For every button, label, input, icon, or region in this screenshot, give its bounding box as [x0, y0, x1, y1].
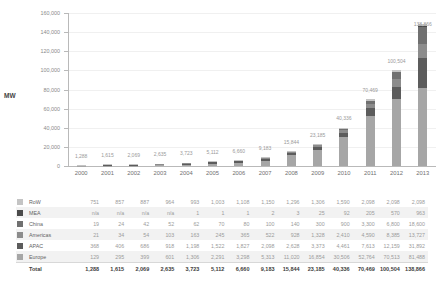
table-cell: 21	[77, 229, 102, 240]
table-cell: 5,313	[252, 251, 277, 263]
bar-column: 1,615	[94, 13, 120, 166]
table-row-label: Europe	[16, 251, 77, 263]
table-cell: 2,069	[127, 263, 152, 275]
table-cell: 3,723	[177, 263, 202, 275]
bar-column: 15,844	[278, 13, 304, 166]
bar-segment-apac	[366, 108, 375, 115]
bar-segment-europe	[366, 116, 375, 166]
y-axis-tick-label: 20,000	[18, 144, 60, 150]
table-cell: 54	[127, 229, 152, 240]
table-cell: 2,635	[152, 263, 177, 275]
bar-value-label: 70,469	[363, 87, 378, 93]
table-cell: 129	[77, 251, 102, 263]
table-cell: 963	[403, 207, 428, 218]
table-cell: 3,298	[227, 251, 252, 263]
bar-segment-europe	[155, 165, 164, 166]
x-axis-line	[68, 166, 436, 167]
x-axis-tick-label: 2008	[278, 170, 304, 176]
x-axis-tick-label: 2006	[226, 170, 252, 176]
y-axis-tick-label: 120,000	[18, 48, 60, 54]
table-cell: 24	[102, 218, 127, 229]
y-axis-tick-label: 140,000	[18, 29, 60, 35]
table-cell: 11,020	[278, 251, 303, 263]
table-cell: 2,098	[353, 196, 378, 207]
table-cell: 205	[353, 207, 378, 218]
bar-stack	[129, 164, 138, 166]
table-row-label: APAC	[16, 240, 77, 251]
y-axis-tick-label: 80,000	[18, 87, 60, 93]
table-cell: 1,150	[252, 196, 277, 207]
table-cell: 399	[127, 251, 152, 263]
table-cell: n/a	[127, 207, 152, 218]
table-cell: 92	[328, 207, 353, 218]
table-cell: 62	[177, 218, 202, 229]
table-cell: 993	[177, 196, 202, 207]
bar-segment-europe	[234, 163, 243, 166]
y-axis-tick-label: 0	[18, 163, 60, 169]
table-cell: 70	[202, 218, 227, 229]
table-cell: 1,522	[202, 240, 227, 251]
table-cell: 16,854	[303, 251, 328, 263]
x-axis-tick-label: 2000	[68, 170, 94, 176]
y-axis-tick-label: 60,000	[18, 106, 60, 112]
table-cell: 2	[252, 207, 277, 218]
stacked-bar-chart: MW 160,000140,000120,000100,00080,00060,…	[0, 0, 442, 192]
table-cell: 2,098	[252, 240, 277, 251]
table-cell: 1,198	[177, 240, 202, 251]
table-row: Americas2134541031632453655229281,3282,4…	[16, 229, 428, 240]
table-cell: 2,098	[378, 196, 403, 207]
bar-value-label: 1,615	[101, 152, 114, 158]
table-cell: 295	[102, 251, 127, 263]
table-row-label: China	[16, 218, 77, 229]
table-cell: 900	[328, 218, 353, 229]
table-cell: 1,003	[202, 196, 227, 207]
data-table: RoW7518578879649931,0031,1081,1501,2961,…	[16, 196, 428, 274]
table-cell: 100	[252, 218, 277, 229]
table-cell: 23,185	[303, 263, 328, 275]
table-row-label: Total	[16, 263, 77, 275]
table-row: China192442526270801001403009003,3006,80…	[16, 218, 428, 229]
table-cell: 4,461	[328, 240, 353, 251]
table-cell: 100,504	[378, 263, 403, 275]
y-axis-title: MW	[4, 92, 16, 99]
bar-value-label: 40,336	[336, 115, 351, 121]
table-cell: 1	[177, 207, 202, 218]
bar-value-label: 9,183	[259, 145, 272, 151]
table-cell: 40,336	[328, 263, 353, 275]
x-axis-tick-label: 2002	[121, 170, 147, 176]
x-axis-tick-label: 2007	[252, 170, 278, 176]
bar-value-label: 138,866	[414, 21, 432, 27]
bar-column: 23,185	[305, 13, 331, 166]
table-cell: 751	[77, 196, 102, 207]
table-cell: 4,590	[353, 229, 378, 240]
table-cell: 8,385	[378, 229, 403, 240]
bar-segment-europe	[392, 99, 401, 166]
legend-swatch-icon	[17, 243, 23, 249]
table-cell: 6,660	[227, 263, 252, 275]
legend-swatch-icon	[17, 199, 23, 205]
table-cell: 1,328	[303, 229, 328, 240]
table-cell: 13,727	[403, 229, 428, 240]
table-cell: 70,513	[378, 251, 403, 263]
table-cell: 138,866	[403, 263, 428, 275]
bar-value-label: 2,069	[127, 152, 140, 158]
bar-segment-europe	[182, 165, 191, 166]
table-cell: 368	[77, 240, 102, 251]
bar-column: 6,660	[226, 13, 252, 166]
table-row-label: Americas	[16, 229, 77, 240]
bar-stack	[392, 70, 401, 166]
table-cell: 964	[152, 196, 177, 207]
table-cell: 9,183	[252, 263, 277, 275]
table-cell: 2,628	[278, 240, 303, 251]
x-axis-tick-label: 2005	[199, 170, 225, 176]
table-row: MEAn/an/an/an/a111232592205570963	[16, 207, 428, 218]
table-cell: 686	[127, 240, 152, 251]
table-cell: 52	[152, 218, 177, 229]
legend-swatch-icon	[17, 210, 23, 216]
table-cell: 1	[227, 207, 252, 218]
bar-column: 70,469	[357, 13, 383, 166]
table-cell: 15,844	[278, 263, 303, 275]
table-cell: 570	[378, 207, 403, 218]
bar-value-label: 5,112	[206, 149, 218, 155]
y-axis-tick-label: 100,000	[18, 67, 60, 73]
